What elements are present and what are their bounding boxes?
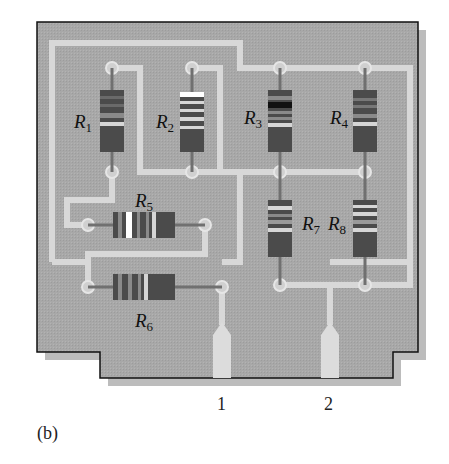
resistor-r2 [180,92,204,152]
resistor-r1 [100,90,124,152]
resistor-r4 [353,90,377,152]
circuit-board-figure: R1 R2 R3 R4 R5 R6 R7 R8 1 2 (b) [0,0,449,464]
resistor-r6 [113,274,175,300]
label-r1: R1 [74,112,92,134]
resistor-r3 [268,90,292,152]
label-r8: R8 [328,214,346,236]
resistor-r8 [353,200,377,257]
label-r5: R5 [135,191,153,213]
resistor-r7 [268,200,292,257]
resistor-r5 [113,212,175,238]
terminal-2-label: 2 [324,394,333,415]
label-r7: R7 [302,214,320,236]
label-r3: R3 [244,108,262,130]
label-r2: R2 [156,112,174,134]
label-r6: R6 [135,311,153,333]
terminal-1-label: 1 [217,394,226,415]
figure-caption: (b) [37,423,58,444]
label-r4: R4 [330,108,348,130]
